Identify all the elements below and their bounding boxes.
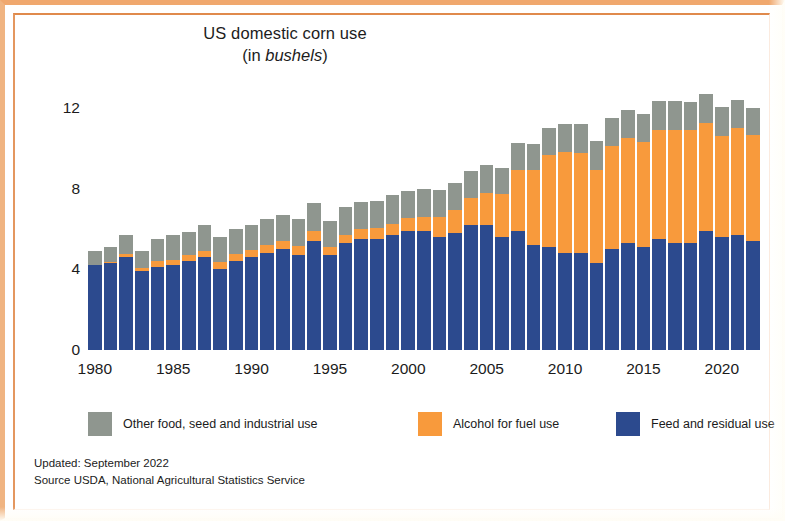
bar-segment [401, 231, 415, 350]
bar-column[interactable] [542, 88, 556, 350]
bar-column[interactable] [370, 88, 384, 350]
bar-segment [339, 243, 353, 350]
bar-column[interactable] [558, 88, 572, 350]
bar-column[interactable] [88, 88, 102, 350]
bar-segment [307, 203, 321, 231]
bar-column[interactable] [637, 88, 651, 350]
bar-column[interactable] [605, 88, 619, 350]
bar-segment [590, 141, 604, 169]
bar-column[interactable] [104, 88, 118, 350]
bar-segment [417, 231, 431, 350]
bar-segment [731, 235, 745, 350]
bar-segment [668, 130, 682, 243]
bar-column[interactable] [699, 88, 713, 350]
bar-segment [401, 191, 415, 219]
bar-segment [433, 237, 447, 350]
legend-item[interactable]: Feed and residual use [616, 412, 775, 436]
chart-page: US domestic corn use (in bushels) 04812 … [0, 0, 785, 521]
bar-column[interactable] [652, 88, 666, 350]
chart-subtitle-prefix: (in [242, 46, 265, 64]
plot-area [88, 88, 760, 350]
bar-segment [495, 194, 509, 237]
bar-column[interactable] [292, 88, 306, 350]
bar-column[interactable] [746, 88, 760, 350]
bar-column[interactable] [684, 88, 698, 350]
bar-column[interactable] [715, 88, 729, 350]
bar-column[interactable] [574, 88, 588, 350]
bar-column[interactable] [668, 88, 682, 350]
bar-column[interactable] [511, 88, 525, 350]
bar-column[interactable] [417, 88, 431, 350]
bar-column[interactable] [198, 88, 212, 350]
chart-subtitle-suffix: ) [322, 46, 328, 64]
legend-item[interactable]: Alcohol for fuel use [418, 412, 559, 436]
bar-column[interactable] [464, 88, 478, 350]
bar-column[interactable] [135, 88, 149, 350]
bar-column[interactable] [119, 88, 133, 350]
bar-segment [731, 100, 745, 128]
bar-segment [746, 108, 760, 135]
legend-item[interactable]: Other food, seed and industrial use [88, 412, 318, 436]
bar-segment [511, 170, 525, 231]
bar-segment [637, 142, 651, 247]
bar-segment [401, 218, 415, 231]
bar-segment [276, 249, 290, 350]
bar-segment [621, 243, 635, 350]
bar-segment [621, 138, 635, 243]
bar-column[interactable] [386, 88, 400, 350]
bar-segment [433, 190, 447, 217]
bar-segment [276, 215, 290, 241]
bar-segment [182, 232, 196, 255]
bar-segment [166, 265, 180, 350]
bar-column[interactable] [229, 88, 243, 350]
bar-column[interactable] [495, 88, 509, 350]
x-axis-tick-1980: 1980 [78, 360, 112, 378]
y-axis-tick-8: 8 [28, 180, 80, 198]
bar-column[interactable] [401, 88, 415, 350]
chart-title: US domestic corn use [145, 22, 425, 44]
bar-segment [151, 239, 165, 261]
bar-column[interactable] [433, 88, 447, 350]
bar-column[interactable] [323, 88, 337, 350]
bar-column[interactable] [213, 88, 227, 350]
bar-segment [527, 170, 541, 245]
bar-segment [135, 251, 149, 268]
bar-column[interactable] [621, 88, 635, 350]
bar-segment [668, 243, 682, 350]
bar-column[interactable] [166, 88, 180, 350]
bar-segment [213, 269, 227, 350]
bar-segment [166, 235, 180, 260]
bar-segment [323, 247, 337, 255]
bar-column[interactable] [354, 88, 368, 350]
x-axis-tick-2015: 2015 [626, 360, 660, 378]
bar-segment [307, 241, 321, 350]
bar-segment [590, 263, 604, 350]
bar-column[interactable] [527, 88, 541, 350]
bar-column[interactable] [182, 88, 196, 350]
bar-segment [386, 195, 400, 224]
bar-segment [574, 253, 588, 350]
bar-column[interactable] [339, 88, 353, 350]
y-axis-tick-4: 4 [28, 260, 80, 278]
bar-segment [652, 101, 666, 130]
bar-segment [605, 118, 619, 146]
bar-segment [260, 253, 274, 350]
bar-column[interactable] [731, 88, 745, 350]
bar-segment [339, 235, 353, 244]
bar-column[interactable] [276, 88, 290, 350]
bar-column[interactable] [307, 88, 321, 350]
bar-segment [746, 135, 760, 241]
bar-segment [104, 247, 118, 262]
bar-column[interactable] [151, 88, 165, 350]
bar-column[interactable] [245, 88, 259, 350]
bar-segment [480, 165, 494, 193]
bar-column[interactable] [448, 88, 462, 350]
bar-segment [354, 202, 368, 230]
chart-legend: Other food, seed and industrial useAlcoh… [88, 412, 748, 438]
bar-segment [652, 239, 666, 350]
bar-column[interactable] [480, 88, 494, 350]
bar-column[interactable] [260, 88, 274, 350]
bar-column[interactable] [590, 88, 604, 350]
bar-segment [558, 152, 572, 253]
bar-segment [292, 219, 306, 246]
